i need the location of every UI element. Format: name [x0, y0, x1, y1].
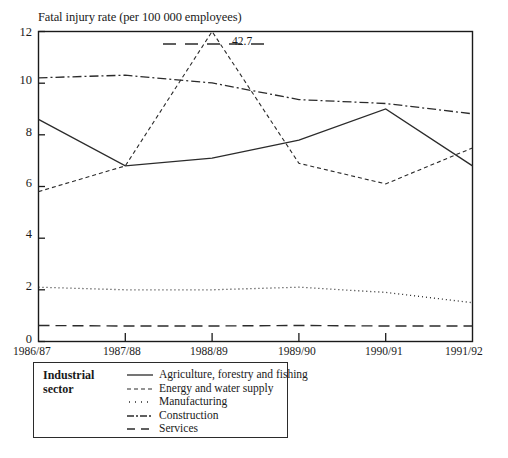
legend-label-manufacturing: Manufacturing — [156, 395, 227, 409]
plot-frame — [39, 32, 473, 342]
legend-title: Industrial sector — [43, 369, 123, 396]
legend-title-line1: Industrial — [43, 368, 94, 382]
series-line-energy — [39, 32, 473, 192]
x-axis-ticks — [125, 333, 385, 342]
legend-swatch-longdash-icon — [126, 422, 156, 436]
legend-entries: Agriculture, forestry and fishing Energy… — [126, 368, 286, 436]
legend-title-line2: sector — [43, 382, 74, 396]
legend: Industrial sector Agriculture, forestry … — [33, 362, 288, 438]
legend-swatch-solid-icon — [126, 368, 156, 382]
legend-label-services: Services — [156, 422, 198, 436]
legend-item-services: Services — [126, 422, 286, 436]
fatal-injury-rate-chart: Fatal injury rate (per 100 000 employees… — [0, 0, 508, 458]
series-line-agriculture — [39, 109, 473, 166]
legend-item-energy: Energy and water supply — [126, 382, 286, 396]
legend-label-energy: Energy and water supply — [156, 382, 273, 396]
legend-swatch-dashdot-icon — [126, 409, 156, 423]
series-line-manufacturing — [39, 287, 473, 303]
series-line-services — [39, 326, 473, 327]
legend-item-agriculture: Agriculture, forestry and fishing — [126, 368, 286, 382]
series-line-construction — [39, 75, 473, 114]
legend-swatch-dotted-icon — [126, 395, 156, 409]
legend-item-construction: Construction — [126, 409, 286, 423]
legend-swatch-dashed-icon — [126, 382, 156, 396]
legend-label-construction: Construction — [156, 409, 218, 423]
legend-label-agriculture: Agriculture, forestry and fishing — [156, 368, 308, 382]
legend-item-manufacturing: Manufacturing — [126, 395, 286, 409]
